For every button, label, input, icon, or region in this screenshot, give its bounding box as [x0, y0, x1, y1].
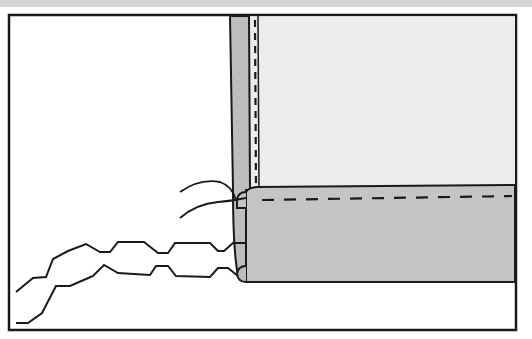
sewing-diagram: [0, 0, 532, 339]
upper-fabric-edge: [258, 16, 259, 188]
hem-bottom-fold: [237, 266, 246, 282]
upper-fabric: [250, 17, 515, 188]
